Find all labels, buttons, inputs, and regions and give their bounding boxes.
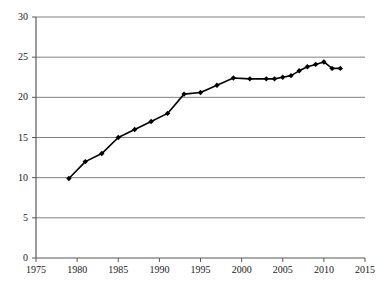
data-point-marker bbox=[264, 76, 269, 81]
data-point-marker bbox=[132, 127, 137, 132]
y-axis-tick-label: 20 bbox=[0, 92, 28, 102]
y-axis-tick-label: 5 bbox=[0, 213, 28, 223]
data-point-marker bbox=[272, 76, 277, 81]
y-axis-tick-label: 30 bbox=[0, 12, 28, 22]
x-axis-tick-label: 2005 bbox=[263, 265, 303, 275]
data-point-marker bbox=[198, 90, 203, 95]
data-point-marker bbox=[338, 66, 343, 71]
x-axis-tick-label: 1985 bbox=[98, 265, 138, 275]
x-axis-tick-label: 2010 bbox=[304, 265, 344, 275]
data-point-marker bbox=[231, 75, 236, 80]
data-markers bbox=[66, 59, 343, 181]
x-axis-tick-label: 1980 bbox=[57, 265, 97, 275]
data-point-marker bbox=[305, 64, 310, 69]
x-axis-tick-label: 1975 bbox=[16, 265, 56, 275]
x-axis-tick-label: 1995 bbox=[181, 265, 221, 275]
y-axis-tick-label: 10 bbox=[0, 173, 28, 183]
x-axis-tick-label: 2015 bbox=[345, 265, 380, 275]
data-point-marker bbox=[280, 75, 285, 80]
data-point-marker bbox=[214, 83, 219, 88]
data-point-marker bbox=[247, 76, 252, 81]
x-axis-tick-label: 2000 bbox=[222, 265, 262, 275]
y-axis-tick-label: 0 bbox=[0, 253, 28, 263]
y-axis-tick-label: 15 bbox=[0, 133, 28, 143]
y-axis-tick-label: 25 bbox=[0, 52, 28, 62]
x-axis-tick-label: 1990 bbox=[139, 265, 179, 275]
data-point-marker bbox=[148, 119, 153, 124]
data-point-marker bbox=[313, 62, 318, 67]
gridlines bbox=[36, 17, 365, 218]
data-line bbox=[69, 62, 340, 178]
